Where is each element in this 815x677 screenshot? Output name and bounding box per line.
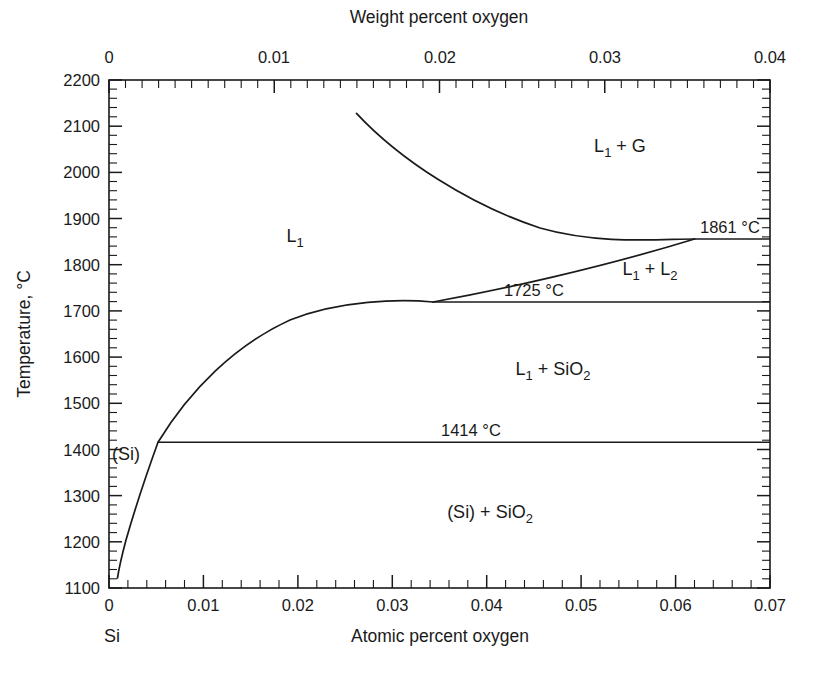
region-label-l1-sio2-sub1: 1 (526, 368, 533, 383)
y-tick-label: 1600 (63, 348, 100, 366)
y-tick-label: 1400 (63, 441, 100, 459)
bottom-tick-label: 0.03 (376, 596, 408, 614)
region-label-l1-sio2-main: L (515, 359, 525, 379)
temp-label-1414: 1414 °C (441, 421, 501, 439)
top-axis-title: Weight percent oxygen (350, 7, 529, 27)
temp-label-1861: 1861 °C (700, 218, 760, 236)
y-tick-label: 1300 (63, 487, 100, 505)
left-endpoint-label: Si (104, 626, 120, 646)
y-tick-label: 2100 (63, 117, 100, 135)
region-label-l1-l2-sub2: 2 (670, 268, 677, 283)
bottom-tick-label: 0.04 (471, 596, 503, 614)
y-tick-label: 1800 (63, 256, 100, 274)
top-tick-label: 0.02 (424, 48, 456, 66)
y-tick-label: 1900 (63, 210, 100, 228)
region-label-l1-l2-mid: + L (640, 259, 671, 279)
region-label-l1-g-suffix: + G (611, 136, 646, 156)
region-label-l1-subscript: 1 (296, 235, 303, 250)
region-label-l1-g-subscript: 1 (604, 145, 611, 160)
y-tick-label: 2000 (63, 163, 100, 181)
phase-diagram-figure: Weight percent oxygen 0 0.01 0.02 0.03 0… (0, 0, 815, 677)
y-tick-label: 1100 (65, 579, 100, 597)
bottom-tick-label: 0.05 (565, 596, 597, 614)
y-tick-label: 1200 (63, 533, 100, 551)
bottom-tick-label: 0.06 (660, 596, 692, 614)
y-axis-title: Temperature, °C (14, 270, 34, 398)
region-label-l1-main: L (286, 226, 296, 246)
bottom-tick-label: 0.02 (282, 596, 314, 614)
bottom-tick-label: 0.07 (754, 596, 786, 614)
bottom-tick-label: 0.01 (187, 596, 219, 614)
y-tick-label: 1700 (63, 302, 100, 320)
region-label-si-sio2-sub: 2 (526, 511, 533, 526)
region-label-l1-sio2-mid: + SiO (533, 359, 584, 379)
region-label-l1-sio2-sub2: 2 (583, 368, 590, 383)
top-tick-label: 0 (104, 48, 113, 66)
temp-label-1725: 1725 °C (504, 281, 564, 299)
region-label-si-sio2-main: (Si) + SiO (447, 502, 526, 522)
region-label-l1-l2-sub1: 1 (633, 268, 640, 283)
figure-background (0, 0, 815, 677)
top-tick-label: 0.03 (589, 48, 621, 66)
bottom-tick-label: 0 (104, 596, 113, 614)
bottom-axis-title: Atomic percent oxygen (351, 626, 529, 646)
region-label-l1-g-main: L (594, 136, 604, 156)
phase-diagram-svg: Weight percent oxygen 0 0.01 0.02 0.03 0… (0, 0, 815, 677)
top-tick-label: 0.01 (258, 48, 290, 66)
y-tick-label: 1500 (63, 394, 100, 412)
top-tick-label: 0.04 (754, 48, 786, 66)
region-label-si: (Si) (112, 444, 140, 464)
y-tick-label: 2200 (63, 71, 100, 89)
region-label-l1-l2-main: L (622, 259, 632, 279)
